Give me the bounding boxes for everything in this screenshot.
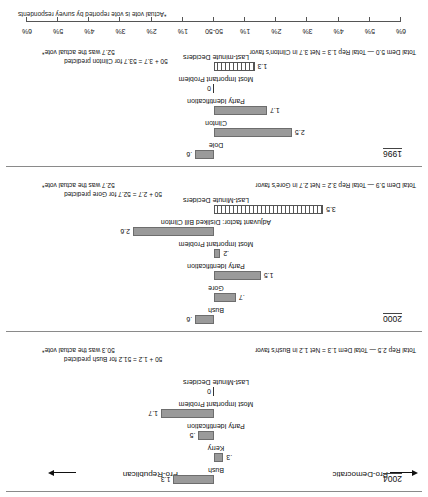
bar-1996-dole: [195, 150, 214, 159]
panel-year-label: 1996: [383, 148, 402, 159]
axis-tick: [400, 17, 401, 22]
panel-year-label: 2004: [383, 473, 402, 484]
bar-2000-last-minute-deciders: [214, 205, 323, 214]
bar-category-label: Dole: [209, 141, 223, 149]
bar-2000-adjuvant-factor-disliked-bill-clinton: [133, 227, 214, 236]
axis-tick-label-rep-3%: 3%: [115, 28, 125, 35]
panel-net-summary: Total Dem 5.0 — Total Rep 1.3 = Net 3.7 …: [250, 48, 416, 57]
panel-actual-vote-line: 52.7 was the actual vote*: [42, 48, 115, 57]
panel-predicted-line: 50 + 3.7 = 53.7 for Clinton predicted: [64, 57, 168, 66]
panel-1996: 1996.6Dole2.5Clinton1.7Party Identificat…: [0, 39, 428, 167]
bar-value-label: 0: [207, 387, 211, 396]
bar-category-label: Last-Minute Deciders: [183, 378, 249, 386]
bar-value-label: .3: [226, 453, 241, 462]
bar-category-label: Gore: [208, 284, 224, 292]
axis-tick: [307, 17, 308, 22]
bar-category-label: Party Identification: [187, 97, 245, 105]
axis-tick-label-rep-2%: 2%: [147, 28, 157, 35]
axis-tick: [213, 17, 214, 22]
axis-tick-label-dem-5%: 5%: [365, 28, 375, 35]
bar-value-label: 3.5: [326, 205, 341, 214]
bar-2000-bush: [195, 315, 214, 324]
panel-predicted-line: 50 + 1.2 = 51.2 for Bush predicted: [64, 355, 162, 364]
panel-actual-vote-line: 52.7 was the actual vote*: [42, 181, 115, 190]
panel-net-summary: Total Rep 2.5 — Total Dem 1.3 = Net 1.2 …: [255, 346, 416, 355]
bar-1996-party-identification: [214, 106, 267, 115]
bar-category-label: Bush: [208, 306, 224, 314]
bar-2004-most-important-problem: [161, 409, 214, 418]
bar-value-label: 1.7: [270, 106, 285, 115]
bar-category-label: Last-Minute Deciders: [183, 196, 249, 204]
axis-tick-label-dem-3%: 3%: [302, 28, 312, 35]
panel-net-summary: Total Dem 5.9 — Total Rep 3.2 = Net 2.7 …: [255, 181, 416, 190]
bar-value-label: .6: [186, 315, 192, 324]
panel-divider: [6, 491, 422, 492]
bar-value-label: .6: [186, 150, 192, 159]
axis-tick: [151, 17, 152, 22]
axis-tick: [182, 17, 183, 22]
axis-tick: [120, 17, 121, 22]
bar-category-label: Party Identification: [187, 262, 245, 270]
panel-2004: 20041.3Bush.3Kerry.5Party Identification…: [0, 337, 428, 492]
axis-tick-label-rep-6%: 6%: [22, 28, 32, 35]
bar-value-label: 0: [207, 84, 211, 93]
axis-tick-label-dem-1%: 1%: [240, 28, 250, 35]
bar-value-label: 1.3: [161, 475, 171, 484]
panel-divider: [6, 331, 422, 332]
bar-value-label: 1.3: [258, 62, 273, 71]
axis-tick: [88, 17, 89, 22]
bar-1996-clinton: [214, 128, 292, 137]
axis-tick: [275, 17, 276, 22]
bar-2000-most-important-problem: [214, 249, 220, 258]
axis-tick-label-rep-5%: 5%: [53, 28, 63, 35]
bar-2004-last-minute-deciders: [213, 387, 214, 396]
bar-value-label: 1.5: [264, 271, 279, 280]
bar-2004-party-identification: [198, 431, 214, 440]
axis-line: [27, 21, 401, 22]
bar-category-label: Most Important Problem: [179, 400, 254, 408]
chart-canvas: *Actual vote is vote reported by survey …: [0, 0, 428, 497]
bar-value-label: 2.5: [295, 128, 310, 137]
axis-tick-label-rep-1%: 1%: [178, 28, 188, 35]
bar-value-label: 1.7: [148, 409, 158, 418]
axis-tick: [338, 17, 339, 22]
panel-predicted-line: 50 + 2.7 = 52.7 for Gore predicted: [64, 190, 162, 199]
bar-category-label: Last-minute Deciders: [183, 53, 249, 61]
bar-category-label: Clinton: [205, 119, 227, 127]
bar-2004-bush: [173, 475, 214, 484]
bar-value-label: 2.6: [120, 227, 130, 236]
bar-1996-most-important-problem: [213, 84, 214, 93]
bar-category-label: Most Important Problem: [179, 240, 254, 248]
panel-divider: [6, 166, 422, 167]
bar-category-label: Most Important Problem: [179, 75, 254, 83]
panel-2000: 2000.6Bush.7Gore1.5Party Identification.…: [0, 172, 428, 332]
bar-1996-last-minute-deciders: [214, 62, 255, 71]
panel-actual-vote-line: 50.3 was the actual vote*: [42, 346, 115, 355]
bar-category-label: Adjuvant factor: Disliked Bill Clinton: [161, 218, 271, 226]
bar-value-label: .2: [223, 249, 238, 258]
panel-year-label: 2000: [383, 313, 402, 324]
axis-tick: [369, 17, 370, 22]
axis-tick: [244, 17, 245, 22]
bar-2000-gore: [214, 293, 236, 302]
axis-tick-label-dem-4%: 4%: [334, 28, 344, 35]
bar-2000-party-identification: [214, 271, 261, 280]
axis-tick: [26, 17, 27, 22]
bar-category-label: Party Identification: [187, 422, 245, 430]
bar-value-label: .5: [190, 431, 196, 440]
axis-tick-label-rep-4%: 4%: [84, 28, 94, 35]
axis-tick-label-dem-6%: 6%: [396, 28, 406, 35]
bar-category-label: Kerry: [208, 444, 225, 452]
axis-tick-label-dem-2%: 2%: [271, 28, 281, 35]
bar-category-label: Bush: [208, 466, 224, 474]
bar-2004-kerry: [214, 453, 223, 462]
x-axis: 6%5%4%3%2%1%50-501%2%3%4%5%6%: [0, 11, 428, 35]
bar-value-label: .7: [239, 293, 254, 302]
axis-tick-label-center: 50-50: [205, 28, 223, 35]
axis-tick: [57, 17, 58, 22]
